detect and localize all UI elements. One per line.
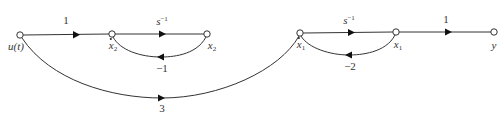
node-x1dot xyxy=(297,30,303,36)
gain-label-u-x1dot: 3 xyxy=(159,103,165,114)
gain-label-x1-x1dot: −2 xyxy=(344,61,356,72)
arrow-icon xyxy=(445,29,452,36)
arrow-icon xyxy=(157,54,164,61)
gain-label-x2-x2dot: −1 xyxy=(156,63,168,74)
arrow-icon xyxy=(73,31,80,39)
node-u xyxy=(17,32,23,38)
gain-label-x1-y: 1 xyxy=(443,14,449,25)
x1dot-sub: 1 xyxy=(302,44,306,52)
node-x1 xyxy=(393,29,399,35)
signal-flow-graph xyxy=(0,0,504,118)
gain-exp: −1 xyxy=(160,15,167,23)
x1-sub: 1 xyxy=(399,44,403,52)
gain-label-x2dot-x2: s−1 xyxy=(156,16,168,27)
gain-exp: −1 xyxy=(347,14,354,22)
node-label-x2: x2 xyxy=(208,40,216,53)
x2dot-base: x xyxy=(109,40,114,51)
x1dot-base: x xyxy=(297,39,302,50)
node-label-x1dot: x1 xyxy=(297,39,305,52)
branch-x1-to-x1dot xyxy=(301,35,395,55)
x2dot-sub: 2 xyxy=(114,45,118,53)
x2-sub: 2 xyxy=(213,45,217,53)
arrow-icon xyxy=(159,31,166,38)
branch-x2-to-x2dot xyxy=(113,37,206,57)
gain-label-u-x2dot: 1 xyxy=(63,15,69,26)
node-x2dot xyxy=(109,31,115,37)
branch-u-to-x2dot xyxy=(23,34,109,35)
gain-label-x1dot-x1: s−1 xyxy=(343,15,355,26)
arrow-icon xyxy=(345,52,352,59)
node-label-x1: x1 xyxy=(394,39,402,52)
node-y xyxy=(491,29,497,35)
node-label-x2dot: x2 xyxy=(109,40,117,53)
node-x2 xyxy=(204,31,210,37)
arrow-icon xyxy=(348,29,355,36)
node-label-u: u(t) xyxy=(8,41,24,52)
node-label-y: y xyxy=(492,40,497,51)
arrow-icon xyxy=(158,95,165,102)
